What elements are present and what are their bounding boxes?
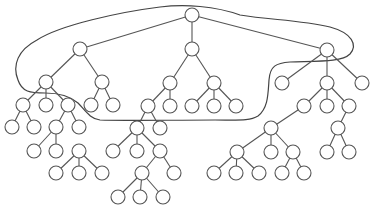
- tree-node: [297, 99, 311, 113]
- tree-node: [207, 99, 221, 113]
- tree-node: [264, 145, 278, 159]
- tree-node: [153, 121, 167, 135]
- tree-node: [264, 121, 278, 135]
- tree-node: [185, 42, 199, 56]
- tree-node: [73, 42, 87, 56]
- tree-node: [39, 98, 53, 112]
- tree-node: [106, 98, 120, 112]
- tree-diagram-canvas: [0, 0, 372, 213]
- tree-node: [163, 99, 177, 113]
- tree-node: [16, 98, 30, 112]
- tree-node: [130, 144, 144, 158]
- tree-edge: [282, 50, 327, 83]
- tree-node: [141, 99, 155, 113]
- tree-node: [27, 144, 41, 158]
- tree-node: [207, 166, 221, 180]
- tree-node: [185, 99, 199, 113]
- tree-node: [342, 145, 356, 159]
- tree-edge: [192, 15, 327, 50]
- tree-node: [230, 145, 244, 159]
- tree-node: [229, 99, 243, 113]
- tree-node: [355, 76, 369, 90]
- tree-nodes: [5, 8, 369, 204]
- tree-node: [61, 98, 75, 112]
- tree-node: [163, 76, 177, 90]
- tree-diagram: [0, 0, 372, 213]
- tree-node: [320, 76, 334, 90]
- tree-node: [286, 145, 300, 159]
- tree-node: [320, 145, 334, 159]
- tree-node: [39, 75, 53, 89]
- tree-node: [49, 120, 63, 134]
- tree-node: [72, 120, 86, 134]
- tree-node: [72, 166, 86, 180]
- tree-node: [130, 121, 144, 135]
- tree-node: [275, 166, 289, 180]
- tree-node: [153, 144, 167, 158]
- tree-node: [133, 190, 147, 204]
- tree-node: [95, 166, 109, 180]
- tree-node: [320, 99, 334, 113]
- tree-node: [275, 76, 289, 90]
- tree-node: [207, 76, 221, 90]
- tree-node: [229, 166, 243, 180]
- tree-node: [5, 120, 19, 134]
- tree-edge: [80, 15, 192, 49]
- tree-node: [252, 166, 266, 180]
- tree-node: [27, 120, 41, 134]
- tree-node: [331, 121, 345, 135]
- tree-node: [106, 144, 120, 158]
- tree-node: [342, 99, 356, 113]
- tree-node: [84, 98, 98, 112]
- tree-node: [49, 166, 63, 180]
- tree-node: [95, 75, 109, 89]
- tree-node: [297, 166, 311, 180]
- tree-node: [167, 166, 181, 180]
- tree-node: [320, 43, 334, 57]
- tree-node: [185, 8, 199, 22]
- tree-node: [72, 144, 86, 158]
- tree-node: [111, 190, 125, 204]
- tree-node: [135, 166, 149, 180]
- tree-node: [156, 190, 170, 204]
- tree-node: [49, 144, 63, 158]
